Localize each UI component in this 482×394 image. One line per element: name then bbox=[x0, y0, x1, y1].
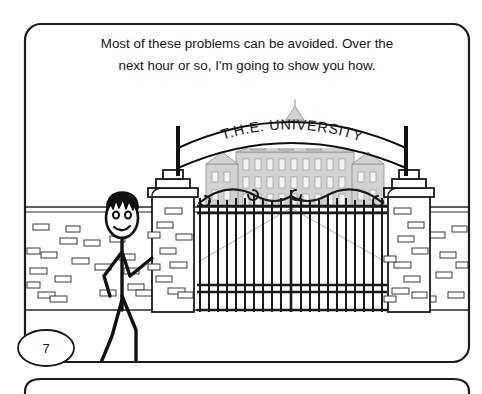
page-number-badge: 7 bbox=[18, 330, 74, 366]
caption-line-2: next hour or so, I'm going to show you h… bbox=[118, 58, 375, 73]
next-comic-panel bbox=[25, 379, 469, 394]
comic-page: T.H.E. UNIVERSITY bbox=[0, 0, 482, 394]
character-eye-right bbox=[125, 211, 131, 218]
character-eye-left bbox=[113, 211, 119, 218]
comic-canvas: T.H.E. UNIVERSITY bbox=[0, 0, 482, 394]
caption-line-1: Most of these problems can be avoided. O… bbox=[101, 36, 394, 51]
page-number-text: 7 bbox=[42, 341, 49, 356]
